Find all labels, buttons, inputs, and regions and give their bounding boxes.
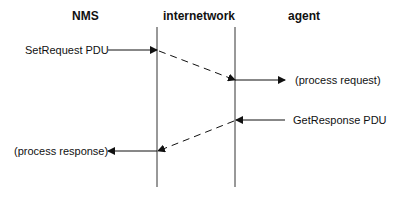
sequence-diagram: [0, 0, 395, 198]
response-transit-dashed: [158, 121, 234, 151]
request-transit-dashed: [159, 51, 235, 80]
